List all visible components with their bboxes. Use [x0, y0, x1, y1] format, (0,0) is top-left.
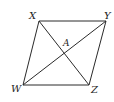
vertex-label-x: X: [28, 10, 37, 21]
side-yz: [89, 21, 106, 85]
vertex-label-z: Z: [90, 84, 99, 95]
vertex-label-y: Y: [104, 10, 112, 21]
vertex-label-w: W: [11, 83, 22, 94]
diagonal-wy: [23, 21, 106, 85]
intersection-label-a: A: [62, 38, 70, 48]
side-wx: [23, 21, 39, 85]
parallelogram-diagram: X Y W Z A: [0, 0, 114, 102]
